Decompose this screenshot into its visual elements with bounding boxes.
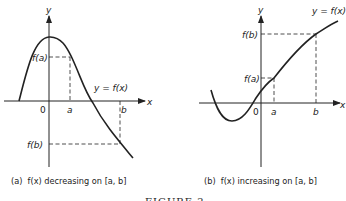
panel-b-tick-b: b bbox=[313, 107, 319, 117]
panel-a-caption: (a) f(x) decreasing on [a, b] bbox=[11, 176, 126, 186]
panel-a-x-label: x bbox=[146, 97, 153, 107]
panel-b-caption: (b) f(x) increasing on [a, b] bbox=[204, 176, 317, 186]
panel-a-tick-fb: f(b) bbox=[27, 140, 43, 150]
panel-b-increasing: y x 0 a b f(a) f(b) y = f(x) (b) f(x) in… bbox=[199, 5, 346, 186]
panel-a-origin-label: 0 bbox=[40, 105, 46, 115]
panel-a-tick-fa: f(a) bbox=[32, 53, 48, 63]
panel-b-tick-fb: f(b) bbox=[242, 30, 258, 40]
panel-b-tick-fa: f(a) bbox=[244, 74, 260, 84]
panel-b-tick-a: a bbox=[271, 107, 277, 117]
panel-b-curve bbox=[211, 21, 338, 121]
figure-canvas: y x 0 a b f(a) f(b) y = f(x) (a) f(x) de… bbox=[0, 0, 346, 201]
panel-a-decreasing: y x 0 a b f(a) f(b) y = f(x) (a) f(x) de… bbox=[4, 5, 153, 186]
panel-a-y-label: y bbox=[45, 5, 52, 15]
figure-title: FIGURE 2 bbox=[145, 196, 205, 201]
panel-a-tick-b: b bbox=[121, 105, 127, 115]
panel-a-curve-label: y = f(x) bbox=[93, 83, 128, 93]
panel-b-x-label: x bbox=[339, 100, 346, 110]
panel-b-origin-label: 0 bbox=[253, 107, 259, 117]
panel-b-curve-label: y = f(x) bbox=[311, 6, 346, 16]
panel-a-tick-a: a bbox=[67, 105, 73, 115]
panel-b-y-label: y bbox=[257, 5, 264, 15]
